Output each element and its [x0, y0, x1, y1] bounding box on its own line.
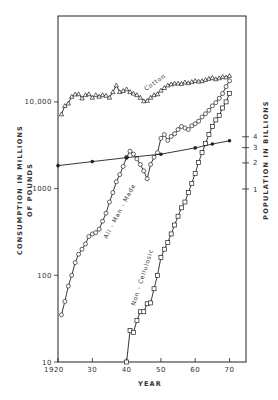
circle-marker [207, 108, 211, 112]
square-marker [228, 91, 232, 95]
square-marker [217, 113, 221, 117]
circle-marker [162, 133, 166, 137]
filled-circle-marker [211, 142, 215, 146]
y-axis-title-line1: CONSUMPTION IN MILLIONS [16, 125, 24, 255]
circle-marker [210, 104, 214, 108]
filled-circle-marker [91, 160, 95, 164]
triangle-marker [227, 74, 231, 78]
triangle-marker [111, 90, 115, 94]
circle-marker [217, 96, 221, 100]
circle-marker [224, 85, 228, 89]
triangle-marker [59, 112, 63, 116]
circle-marker [80, 247, 84, 251]
triangle-marker [94, 93, 98, 97]
circle-marker [121, 164, 125, 168]
y-tick-label: 1000 [32, 185, 52, 193]
series-line [61, 81, 229, 315]
square-marker [159, 256, 163, 260]
circle-marker [83, 242, 87, 246]
axes: 1920304050607010100100010,0001234 [25, 98, 259, 374]
circle-marker [169, 134, 173, 138]
square-marker [179, 206, 183, 210]
circle-marker [152, 155, 156, 159]
square-marker [207, 133, 211, 137]
y2-axis-title: POPULATION IN BILLIONS [262, 100, 270, 219]
circle-marker [118, 173, 122, 177]
square-marker [221, 106, 225, 110]
circle-marker [166, 138, 170, 142]
x-tick-label: 50 [156, 366, 166, 374]
series-all-man-made [59, 79, 231, 317]
series-label-non-cellulosic: Non - Cellulosic [129, 248, 154, 306]
square-marker [214, 118, 218, 122]
circle-marker [94, 231, 98, 235]
circle-marker [73, 261, 77, 265]
filled-circle-marker [228, 139, 232, 143]
circle-marker [135, 157, 139, 161]
y2-tick-label: 3 [253, 144, 258, 152]
circle-marker [176, 128, 180, 132]
square-marker [200, 151, 204, 155]
square-marker [135, 319, 139, 323]
circle-marker [104, 211, 108, 215]
square-marker [183, 200, 187, 204]
circle-marker [197, 119, 201, 123]
circle-marker [101, 219, 105, 223]
y-tick-label: 100 [37, 272, 52, 280]
circle-marker [228, 79, 232, 83]
filled-circle-marker [193, 146, 197, 150]
circle-marker [221, 91, 225, 95]
circle-marker [193, 122, 197, 126]
circle-marker [70, 273, 74, 277]
circle-marker [107, 200, 111, 204]
circle-marker [97, 227, 101, 231]
circle-marker [203, 112, 207, 116]
circle-marker [186, 128, 190, 132]
square-marker [210, 125, 214, 129]
series-non-cellulosic [125, 91, 232, 364]
square-marker [186, 191, 190, 195]
circle-marker [149, 162, 153, 166]
y2-tick-label: 2 [253, 159, 258, 167]
circle-marker [131, 152, 135, 156]
y2-tick-label: 1 [253, 186, 258, 194]
series-line [127, 93, 230, 362]
square-marker [169, 232, 173, 236]
triangle-marker [183, 80, 187, 84]
x-tick-label: 30 [87, 366, 97, 374]
circle-marker [66, 284, 70, 288]
x-tick-label: 40 [122, 366, 132, 374]
square-marker [190, 181, 194, 185]
filled-circle-marker [56, 164, 60, 168]
plot-frame [58, 16, 246, 362]
circle-marker [214, 101, 218, 105]
circle-marker [111, 191, 115, 195]
circle-marker [128, 149, 132, 153]
y2-tick-label: 4 [253, 133, 258, 141]
triangle-marker [210, 75, 214, 79]
square-marker [152, 287, 156, 291]
y-axis-title-line2: OF POUNDS [26, 163, 34, 217]
series-layer [56, 74, 232, 364]
x-tick-label: 70 [225, 366, 235, 374]
circle-marker [200, 115, 204, 119]
circle-marker [173, 132, 177, 136]
filled-circle-marker [159, 152, 163, 156]
square-marker [224, 100, 228, 104]
y-axis-title: CONSUMPTION IN MILLIONS OF POUNDS [16, 125, 34, 255]
square-marker [155, 273, 159, 277]
square-marker [162, 247, 166, 251]
circle-marker [114, 180, 118, 184]
circle-marker [87, 235, 91, 239]
square-marker [176, 214, 180, 218]
circle-marker [159, 136, 163, 140]
filled-circle-marker [125, 156, 129, 160]
y-tick-label: 10,000 [25, 98, 53, 106]
square-marker [173, 223, 177, 227]
circle-marker [145, 177, 149, 181]
x-tick-label: 60 [190, 366, 200, 374]
series-cotton [59, 74, 231, 116]
circle-marker [77, 252, 81, 256]
square-marker [125, 360, 129, 364]
circle-marker [63, 299, 67, 303]
